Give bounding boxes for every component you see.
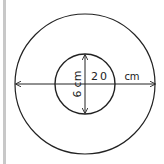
inner-diameter-label: 6cm bbox=[71, 71, 84, 98]
outer-diameter-number: 20 bbox=[91, 70, 109, 83]
diagram-canvas: 6cm 20 cm bbox=[0, 0, 164, 164]
outer-diameter-unit: cm bbox=[124, 71, 139, 82]
